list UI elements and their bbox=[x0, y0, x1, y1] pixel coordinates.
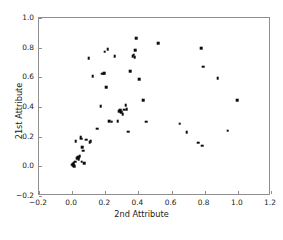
y-tick-label: 1.0 bbox=[10, 13, 34, 22]
x-tick-mark bbox=[238, 191, 239, 194]
x-tick-label: 1.0 bbox=[231, 198, 243, 207]
x-tick-label: 0.8 bbox=[198, 198, 210, 207]
data-point bbox=[99, 105, 102, 108]
scatter-plot-figure: −0.20.00.20.40.60.81.0 −0.20.00.20.40.60… bbox=[0, 0, 283, 240]
y-tick-mark bbox=[39, 107, 42, 108]
data-point bbox=[96, 127, 99, 130]
data-point bbox=[80, 161, 83, 164]
y-tick-mark bbox=[39, 166, 42, 167]
data-point bbox=[186, 131, 189, 134]
x-tick-label: 0.2 bbox=[98, 198, 110, 207]
y-tick-mark bbox=[39, 196, 42, 197]
data-point bbox=[131, 55, 134, 58]
data-point bbox=[81, 146, 84, 149]
x-tick-mark bbox=[39, 191, 40, 194]
y-tick-mark bbox=[39, 48, 42, 49]
data-point bbox=[85, 138, 88, 141]
data-point bbox=[114, 55, 117, 58]
x-axis-label: 2nd Attribute bbox=[0, 209, 283, 219]
x-tick-label: −0.2 bbox=[29, 198, 47, 207]
y-axis-label: 21st Attribute bbox=[14, 56, 24, 166]
y-tick-mark bbox=[39, 137, 42, 138]
figure-caption bbox=[30, 228, 250, 238]
data-point bbox=[197, 142, 200, 145]
data-point bbox=[127, 130, 130, 133]
data-point bbox=[121, 113, 124, 116]
data-point bbox=[80, 138, 83, 141]
data-point bbox=[132, 53, 135, 56]
data-point bbox=[202, 65, 205, 68]
x-tick-label: 1.2 bbox=[264, 198, 276, 207]
data-point bbox=[236, 99, 239, 102]
data-point bbox=[71, 162, 74, 165]
data-point bbox=[74, 140, 77, 143]
data-point bbox=[138, 78, 141, 81]
data-point bbox=[117, 120, 120, 123]
data-point bbox=[118, 110, 121, 113]
x-tick-label: 0.6 bbox=[165, 198, 177, 207]
data-point bbox=[226, 129, 229, 132]
data-point bbox=[102, 72, 105, 75]
data-point bbox=[124, 104, 127, 107]
y-tick-mark bbox=[39, 77, 42, 78]
data-point bbox=[108, 120, 111, 123]
data-point bbox=[120, 111, 123, 114]
data-point bbox=[179, 122, 182, 125]
data-point bbox=[101, 72, 104, 75]
data-point bbox=[77, 158, 80, 161]
data-point bbox=[200, 47, 203, 50]
data-point bbox=[110, 121, 113, 124]
data-point bbox=[145, 120, 148, 123]
data-point bbox=[126, 108, 129, 111]
data-point bbox=[87, 57, 90, 60]
data-point bbox=[83, 162, 86, 165]
x-tick-mark bbox=[205, 191, 206, 194]
data-point bbox=[78, 155, 81, 158]
data-point bbox=[76, 157, 79, 160]
x-tick-mark bbox=[138, 191, 139, 194]
data-point bbox=[73, 165, 76, 168]
data-point bbox=[123, 108, 126, 111]
data-point bbox=[133, 56, 136, 59]
x-tick-mark bbox=[105, 191, 106, 194]
data-point bbox=[201, 144, 204, 147]
data-point bbox=[71, 164, 74, 167]
data-point bbox=[119, 109, 122, 112]
data-point bbox=[73, 162, 76, 165]
data-point bbox=[106, 48, 109, 51]
x-tick-label: 0.0 bbox=[65, 198, 77, 207]
data-point bbox=[129, 70, 132, 73]
x-tick-mark bbox=[271, 191, 272, 194]
data-point bbox=[72, 164, 75, 167]
data-point bbox=[142, 99, 145, 102]
data-point bbox=[157, 42, 160, 45]
data-point bbox=[134, 49, 137, 52]
data-points-layer bbox=[39, 18, 269, 194]
data-point bbox=[103, 72, 106, 75]
data-point bbox=[89, 140, 92, 143]
data-point bbox=[216, 77, 219, 80]
data-point bbox=[88, 141, 91, 144]
plot-area bbox=[38, 17, 270, 195]
data-point bbox=[105, 86, 108, 89]
y-tick-label: 0.8 bbox=[10, 42, 34, 51]
x-tick-label: 0.4 bbox=[132, 198, 144, 207]
data-point bbox=[103, 51, 106, 54]
x-tick-mark bbox=[72, 191, 73, 194]
data-point bbox=[79, 136, 82, 139]
data-point bbox=[74, 161, 77, 164]
x-tick-mark bbox=[172, 191, 173, 194]
data-point bbox=[82, 149, 85, 152]
data-point bbox=[135, 37, 138, 40]
y-tick-mark bbox=[39, 18, 42, 19]
data-point bbox=[77, 156, 80, 159]
data-point bbox=[91, 75, 94, 78]
